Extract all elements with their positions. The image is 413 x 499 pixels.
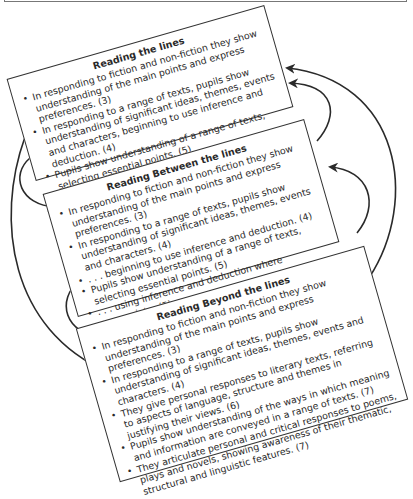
- arrow-beyond-to-between: [330, 167, 369, 233]
- page-frame-edge: [4, 0, 407, 2]
